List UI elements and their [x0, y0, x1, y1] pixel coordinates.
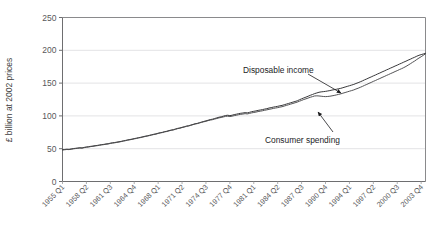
y-tick-label: 200	[42, 45, 56, 55]
y-axis-title: £ billion at 2002 prices	[4, 58, 14, 143]
line-chart: 050100150200250 1955 Q11958 Q21961 Q3196…	[0, 0, 440, 239]
annotation-disposable-income-label: Disposable income	[243, 65, 314, 75]
annotation-consumer-spending-label: Consumer spending	[265, 135, 340, 145]
chart-container: 050100150200250 1955 Q11958 Q21961 Q3196…	[0, 0, 440, 239]
y-tick-label: 100	[42, 111, 56, 121]
y-tick-label: 250	[42, 13, 56, 23]
y-tick-label: 50	[47, 144, 57, 154]
y-tick-label: 0	[52, 177, 57, 187]
y-tick-label: 150	[42, 78, 56, 88]
